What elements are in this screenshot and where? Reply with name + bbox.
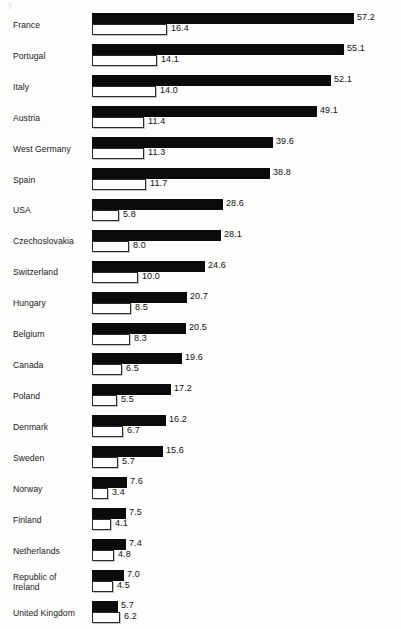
bar-value-label-white: 5.8: [123, 209, 136, 220]
bar-value-label-black: 17.2: [174, 383, 192, 394]
bar-white: [92, 457, 118, 468]
bar-white: [92, 488, 108, 499]
bar-value-label-black: 52.1: [334, 74, 352, 85]
category-label: Portugal: [13, 51, 45, 62]
bar-value-label-black: 19.6: [185, 352, 203, 363]
bar-value-label-white: 3.4: [112, 487, 125, 498]
bar-value-label-white: 10.0: [142, 271, 160, 282]
bar-white: [92, 241, 129, 252]
bar-value-label-black: 28.6: [226, 198, 244, 209]
bar-value-label-black: 20.5: [189, 322, 207, 333]
bar-value-label-black: 55.1: [347, 43, 365, 54]
bar-white: [92, 519, 111, 530]
category-label: Italy: [13, 82, 29, 93]
bar-white: [92, 210, 119, 221]
bar-value-label-black: 7.5: [129, 507, 142, 518]
bar-value-label-black: 38.8: [273, 167, 291, 178]
bar-value-label-white: 8.3: [134, 333, 147, 344]
bar-white: [92, 179, 146, 190]
category-label: Norway: [13, 484, 42, 495]
horizontal-bar-chart: y France57.216.4Portugal55.114.1Italy52.…: [0, 0, 401, 629]
bar-value-label-white: 16.4: [171, 23, 189, 34]
bar-value-label-black: 49.1: [320, 105, 338, 116]
category-label: West Germany: [13, 144, 71, 155]
bar-value-label-white: 14.0: [160, 85, 178, 96]
bar-value-label-black: 16.2: [169, 414, 187, 425]
category-label: USA: [13, 205, 31, 216]
bar-value-label-black: 15.6: [166, 445, 184, 456]
category-label: Hungary: [13, 298, 46, 309]
bar-value-label-black: 57.2: [357, 12, 375, 23]
bar-white: [92, 612, 120, 623]
bar-value-label-white: 8.5: [135, 302, 148, 313]
bar-black: [92, 106, 317, 117]
bar-white: [92, 581, 113, 592]
bar-value-label-black: 28.1: [224, 229, 242, 240]
category-label: Netherlands: [13, 546, 60, 557]
bar-value-label-black: 24.6: [208, 260, 226, 271]
bar-black: [92, 601, 118, 612]
bar-black: [92, 230, 221, 241]
bar-white: [92, 334, 130, 345]
bar-value-label-black: 20.7: [190, 291, 208, 302]
bar-white: [92, 55, 157, 66]
category-label: Finland: [13, 515, 42, 526]
bar-value-label-white: 4.5: [117, 580, 130, 591]
scan-artifact-mark: y: [8, 0, 22, 9]
bar-white: [92, 117, 144, 128]
bar-value-label-white: 5.5: [121, 394, 134, 405]
bar-black: [92, 13, 354, 24]
bar-white: [92, 364, 122, 375]
bar-black: [92, 168, 270, 179]
bar-black: [92, 137, 273, 148]
bar-black: [92, 75, 331, 86]
bar-value-label-black: 7.6: [130, 476, 143, 487]
category-label: Spain: [13, 175, 35, 186]
bar-white: [92, 426, 123, 437]
bar-white: [92, 24, 167, 35]
bar-value-label-white: 11.7: [150, 178, 167, 189]
category-label: Belgium: [13, 329, 44, 340]
category-label: Austria: [13, 113, 40, 124]
bar-value-label-white: 6.2: [124, 611, 137, 622]
bar-value-label-black: 39.6: [276, 136, 294, 147]
bar-value-label-white: 14.1: [161, 54, 179, 65]
bar-white: [92, 86, 156, 97]
bar-value-label-black: 5.7: [121, 600, 134, 611]
bar-value-label-white: 4.1: [115, 518, 128, 529]
bar-white: [92, 303, 131, 314]
bar-black: [92, 44, 344, 55]
category-label: Denmark: [13, 422, 48, 433]
bar-white: [92, 272, 138, 283]
category-label: Republic of Ireland: [13, 572, 57, 593]
bar-value-label-white: 6.7: [127, 425, 140, 436]
category-label: United Kingdom: [13, 608, 75, 619]
category-label: France: [13, 20, 40, 31]
bar-white: [92, 395, 117, 406]
bar-value-label-white: 6.5: [126, 363, 139, 374]
bar-value-label-white: 8.0: [133, 240, 146, 251]
bar-value-label-black: 7.4: [129, 538, 142, 549]
bar-black: [92, 199, 223, 210]
bar-value-label-white: 11.3: [148, 147, 165, 158]
bar-value-label-black: 7.0: [127, 569, 140, 580]
bar-white: [92, 550, 114, 561]
bar-value-label-white: 11.4: [148, 116, 165, 127]
category-label: Poland: [13, 391, 40, 402]
bar-value-label-white: 4.8: [118, 549, 131, 560]
bar-value-label-white: 5.7: [122, 456, 135, 467]
category-label: Sweden: [13, 453, 44, 464]
category-label: Czechoslovakia: [13, 236, 74, 247]
bar-white: [92, 148, 144, 159]
category-label: Canada: [13, 360, 43, 371]
category-label: Switzerland: [13, 267, 58, 278]
